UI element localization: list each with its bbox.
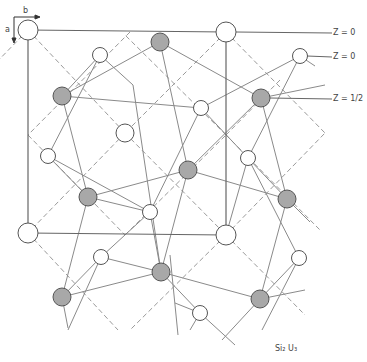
- layer-leader-lines: [236, 32, 332, 99]
- atoms-medium-open: [116, 124, 134, 142]
- atoms-small-open: [41, 48, 308, 321]
- axis-label-b: b: [23, 7, 28, 15]
- layer-label-z-half: Z = 1/2: [333, 95, 363, 103]
- dashed-projection-lines: [0, 30, 325, 330]
- axis-label-a: a: [5, 26, 10, 34]
- compound-label: Si₂ U₃: [275, 345, 297, 353]
- layer-label-z0-second: Z = 0: [333, 53, 355, 61]
- crystal-structure-diagram: [0, 0, 367, 362]
- layer-label-z0-top: Z = 0: [333, 29, 355, 37]
